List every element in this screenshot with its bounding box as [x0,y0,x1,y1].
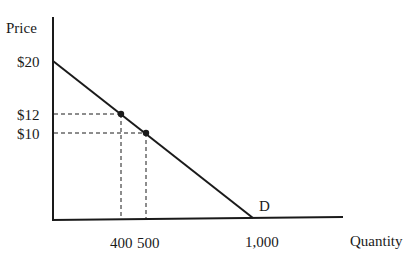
demand-chart [0,0,416,267]
point-400-12 [118,111,124,117]
x-tick-500: 500 [137,236,160,251]
y-tick-12: $12 [17,108,40,123]
y-axis-title: Price [6,21,37,36]
y-tick-20: $20 [17,55,40,70]
demand-curve [53,61,253,218]
x-tick-400: 400 [110,236,133,251]
x-axis [52,217,343,220]
x-tick-1000: 1,000 [245,235,279,250]
x-axis-title: Quantity [350,234,403,249]
demand-curve-label: D [259,199,270,214]
point-500-10 [143,130,149,136]
y-tick-10: $10 [17,127,40,142]
